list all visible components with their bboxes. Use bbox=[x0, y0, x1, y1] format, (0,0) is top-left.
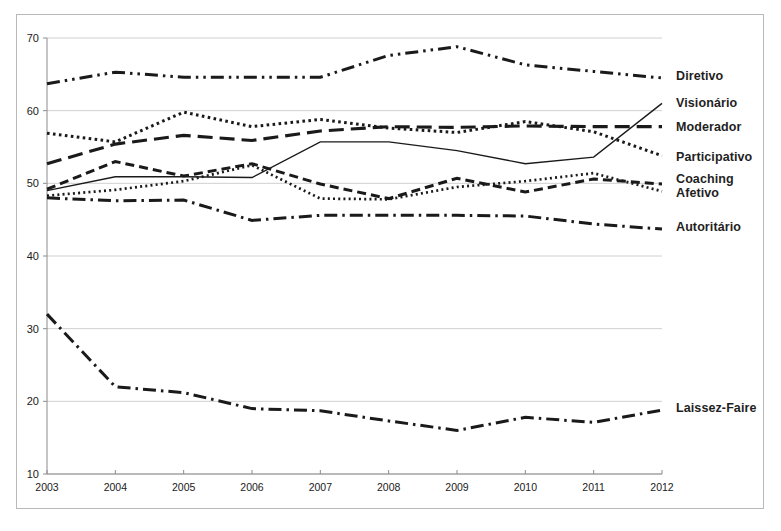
y-axis-tick-label: 10 bbox=[27, 468, 39, 480]
series-line-vision-rio bbox=[47, 103, 662, 190]
y-axis-tick-label: 30 bbox=[27, 323, 39, 335]
series-label-diretivo: Diretivo bbox=[676, 69, 723, 83]
line-chart: 1020304050607020032004200520062007200820… bbox=[0, 0, 781, 531]
x-axis-tick-label: 2007 bbox=[309, 481, 333, 493]
series-label-laissez-faire: Laissez-Faire bbox=[676, 401, 757, 415]
x-axis-tick-label: 2004 bbox=[104, 481, 128, 493]
chart-plot-area: 1020304050607020032004200520062007200820… bbox=[0, 0, 781, 531]
series-label-afetivo: Afetivo bbox=[676, 186, 719, 200]
x-axis-tick-label: 2012 bbox=[650, 481, 674, 493]
x-axis-tick-label: 2010 bbox=[514, 481, 538, 493]
series-line-coaching bbox=[47, 162, 662, 199]
y-axis-tick-label: 50 bbox=[27, 177, 39, 189]
series-line-participativo bbox=[47, 112, 662, 156]
y-axis-tick-label: 70 bbox=[27, 32, 39, 44]
x-axis-tick-label: 2008 bbox=[377, 481, 401, 493]
x-axis-tick-label: 2006 bbox=[240, 481, 264, 493]
series-label-coaching: Coaching bbox=[676, 172, 734, 186]
series-line-laissez-faire bbox=[47, 314, 662, 430]
x-axis-tick-label: 2009 bbox=[445, 481, 469, 493]
x-axis-tick-label: 2003 bbox=[35, 481, 59, 493]
series-label-participativo: Participativo bbox=[676, 150, 752, 164]
chart-page: 1020304050607020032004200520062007200820… bbox=[0, 0, 781, 531]
series-label-moderador: Moderador bbox=[676, 120, 742, 134]
x-axis-tick-label: 2011 bbox=[582, 481, 605, 493]
series-line-diretivo bbox=[47, 47, 662, 84]
series-label-autorit-rio: Autoritário bbox=[676, 220, 741, 234]
x-axis-tick-label: 2005 bbox=[172, 481, 196, 493]
series-line-moderador bbox=[47, 126, 662, 164]
y-axis-tick-label: 60 bbox=[27, 105, 39, 117]
series-line-autorit-rio bbox=[47, 198, 662, 229]
series-label-vision-rio: Visionário bbox=[676, 96, 737, 110]
y-axis-tick-label: 40 bbox=[27, 250, 39, 262]
y-axis-tick-label: 20 bbox=[27, 395, 39, 407]
